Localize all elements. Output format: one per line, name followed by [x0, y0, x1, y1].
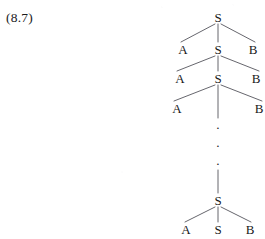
tree-node-level3-b: B: [255, 102, 264, 115]
tree-node-leaf-s: S: [214, 223, 221, 236]
tree-node-lower-s: S: [214, 194, 221, 207]
tree-lines-svg: [0, 0, 265, 239]
tree-node-root-s: S: [214, 11, 221, 24]
branch-l1-to-a: [177, 56, 215, 71]
tree-node-level1-b: B: [249, 43, 258, 56]
figure-root: (8.7): [0, 0, 265, 239]
tree-node-level2-b: B: [252, 72, 261, 85]
branch-l2-to-a: [174, 85, 215, 101]
tree-node-level1-s: S: [214, 43, 221, 56]
tree-branch-canvas: [0, 0, 265, 239]
tree-node-level2-s: S: [214, 72, 221, 85]
branch-l1-to-b: [221, 56, 259, 71]
branch-lower-to-b: [221, 207, 251, 222]
branch-lower-to-a: [185, 207, 215, 222]
tree-node-level2-a: A: [175, 72, 184, 85]
recursion-ellipsis-dot-1: ·: [216, 121, 220, 134]
tree-node-level3-a: A: [172, 102, 181, 115]
tree-node-leaf-b: B: [246, 223, 255, 236]
recursion-ellipsis-dot-3: ·: [216, 157, 220, 170]
equation-number-label: (8.7): [6, 10, 33, 26]
recursion-ellipsis-dot-2: ·: [216, 139, 220, 152]
paper-grain-overlay: [0, 0, 265, 239]
branch-l2-to-b: [221, 85, 262, 101]
tree-node-level1-a: A: [178, 43, 187, 56]
tree-node-leaf-a: A: [181, 223, 190, 236]
branch-root-to-b: [221, 24, 255, 42]
branch-root-to-a: [181, 24, 215, 42]
